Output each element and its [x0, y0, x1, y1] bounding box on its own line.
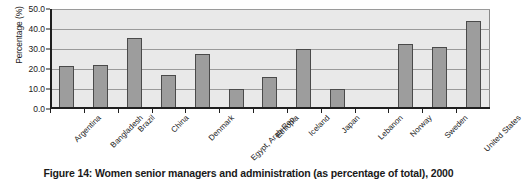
x-label-slot: United States [456, 112, 490, 168]
y-tick-label: 30.0 [28, 44, 50, 54]
bar-slot [219, 9, 253, 109]
bar[interactable] [296, 49, 311, 109]
y-tick-label: 0.0 [33, 104, 50, 114]
bar-slot [287, 9, 321, 109]
bar[interactable] [127, 38, 142, 109]
bar[interactable] [466, 21, 481, 109]
bar[interactable] [161, 75, 176, 109]
x-label-slot: Sweden [422, 112, 456, 168]
bar[interactable] [398, 44, 413, 109]
bar[interactable] [195, 54, 210, 109]
y-tick-label: 40.0 [28, 24, 50, 34]
bar[interactable] [262, 77, 277, 109]
bar-slot [388, 9, 422, 109]
bar-slot [152, 9, 186, 109]
x-label-slot: Bangladesh [84, 112, 118, 168]
bar-slot [50, 9, 84, 109]
y-tick-label: 50.0 [28, 4, 50, 14]
x-label-slot: Ethiopia [253, 112, 287, 168]
x-label-slot: Denmark [185, 112, 219, 168]
bar[interactable] [229, 89, 244, 109]
x-label-slot: Norway [388, 112, 422, 168]
bar-slot [253, 9, 287, 109]
plot-area: 0.010.020.030.040.050.0 [50, 9, 490, 109]
bar-slot [321, 9, 355, 109]
y-tick-label: 10.0 [28, 84, 50, 94]
x-label-slot: Iceland [287, 112, 321, 168]
figure-caption: Figure 14: Women senior managers and adm… [0, 167, 497, 179]
bar-series [50, 9, 490, 109]
x-label-slot: Japan [321, 112, 355, 168]
y-tick-label: 20.0 [28, 64, 50, 74]
y-axis-title: Percentage (%) [14, 0, 24, 90]
x-label-slot: Brazil [118, 112, 152, 168]
bar-slot [355, 9, 389, 109]
bar-slot [456, 9, 490, 109]
bar-slot [84, 9, 118, 109]
bar-slot [118, 9, 152, 109]
bar[interactable] [59, 66, 74, 109]
bar-slot [185, 9, 219, 109]
x-axis-spine [50, 107, 490, 109]
x-label-slot: Lebanon [355, 112, 389, 168]
y-axis-spine [50, 9, 52, 109]
x-label-slot: Argentina [50, 112, 84, 168]
x-label-slot: China [152, 112, 186, 168]
bar[interactable] [432, 47, 447, 109]
x-label-slot: Egypt, Arab Rep. [219, 112, 253, 168]
bar-slot [422, 9, 456, 109]
x-tick-label: United States [483, 114, 523, 154]
bar[interactable] [93, 65, 108, 109]
x-axis-labels: ArgentinaBangladeshBrazilChinaDenmarkEgy… [50, 112, 490, 168]
